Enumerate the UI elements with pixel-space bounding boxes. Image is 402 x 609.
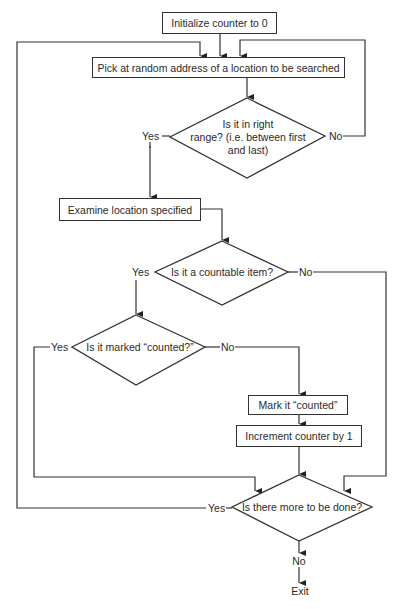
examine-box: Examine location specified <box>59 198 201 221</box>
pick-label: Pick at random address of a location to … <box>97 62 339 74</box>
range-yes-label: Yes <box>141 130 160 142</box>
range-question: Is it in right range? (i.e. between firs… <box>190 118 306 157</box>
increment-box: Increment counter by 1 <box>236 425 362 447</box>
range-no-label: No <box>328 130 343 142</box>
more-no-label: No <box>292 555 305 568</box>
more-question: Is there more to be done? <box>242 501 362 514</box>
init-box: Initialize counter to 0 <box>162 12 277 34</box>
examine-label: Examine location specified <box>68 204 192 216</box>
range-line-1: Is it in right <box>190 118 306 131</box>
countable-yes-label: Yes <box>131 266 150 278</box>
marked-no-label: No <box>220 341 235 353</box>
range-line-2: range? (i.e. between first <box>190 131 306 144</box>
mark-label: Mark it “counted” <box>259 399 338 411</box>
range-line-3: and last) <box>190 144 306 157</box>
more-yes-label: Yes <box>207 502 226 514</box>
marked-question: Is it marked “counted?” <box>86 341 193 354</box>
exit-label: Exit <box>291 585 309 598</box>
mark-box: Mark it “counted” <box>248 395 348 415</box>
countable-no-label: No <box>298 266 313 278</box>
init-label: Initialize counter to 0 <box>171 17 267 29</box>
increment-label: Increment counter by 1 <box>245 430 352 442</box>
pick-box: Pick at random address of a location to … <box>92 57 345 78</box>
countable-question: Is it a countable item? <box>171 266 273 279</box>
connector-lines <box>0 0 402 609</box>
marked-yes-label: Yes <box>50 341 69 353</box>
